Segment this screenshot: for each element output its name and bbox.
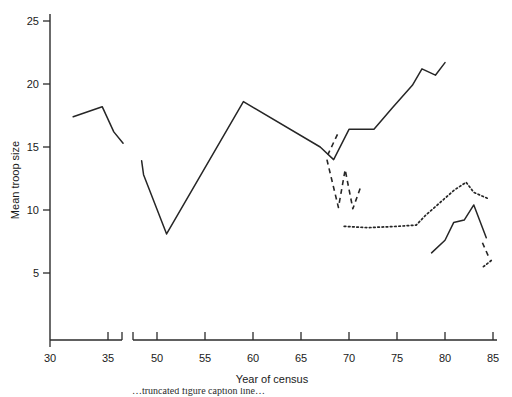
line-chart-plot: 25 20 15 10 5 Mean troop size 30 35 bbox=[0, 0, 512, 397]
x-tick-label-50: 50 bbox=[151, 352, 163, 364]
x-tick-label-55: 55 bbox=[199, 352, 211, 364]
x-tick-label-70: 70 bbox=[343, 352, 355, 364]
y-axis-group: 25 20 15 10 5 Mean troop size bbox=[9, 14, 50, 340]
x-tick-label-65: 65 bbox=[295, 352, 307, 364]
series-late-dotted-fragment bbox=[483, 259, 493, 267]
data-series-layer bbox=[73, 63, 493, 267]
caption-text: …truncated figure caption line… bbox=[132, 388, 265, 396]
x-tick-label-60: 60 bbox=[247, 352, 259, 364]
x-axis-group: 30 35 50 55 60 65 70 75 80 85 Year of ce… bbox=[44, 332, 499, 385]
x-tick-label-75: 75 bbox=[391, 352, 403, 364]
y-tick-label-10: 10 bbox=[27, 204, 39, 216]
figure-container: 25 20 15 10 5 Mean troop size 30 35 bbox=[0, 0, 512, 397]
y-tick-label-5: 5 bbox=[33, 267, 39, 279]
series-dotted-lower-long-segment bbox=[344, 182, 488, 227]
y-tick-label-15: 15 bbox=[27, 141, 39, 153]
x-tick-label-80: 80 bbox=[439, 352, 451, 364]
series-early-solid-segment bbox=[73, 107, 123, 144]
y-tick-label-20: 20 bbox=[27, 78, 39, 90]
series-late-solid-low-segment bbox=[432, 205, 487, 253]
y-tick-label-25: 25 bbox=[27, 15, 39, 27]
truncated-caption-strip: …truncated figure caption line… bbox=[0, 388, 512, 397]
series-late-dashed-fragment bbox=[482, 243, 489, 258]
x-tick-label-35: 35 bbox=[102, 352, 114, 364]
series-dashed-upper-tick bbox=[328, 134, 338, 154]
series-main-solid-segment bbox=[142, 63, 445, 234]
x-tick-label-30: 30 bbox=[44, 352, 56, 364]
x-axis-title: Year of census bbox=[236, 373, 309, 385]
y-axis-title: Mean troop size bbox=[9, 141, 21, 219]
x-tick-label-85: 85 bbox=[487, 352, 499, 364]
series-dashed-zigzag-segment bbox=[327, 160, 361, 209]
